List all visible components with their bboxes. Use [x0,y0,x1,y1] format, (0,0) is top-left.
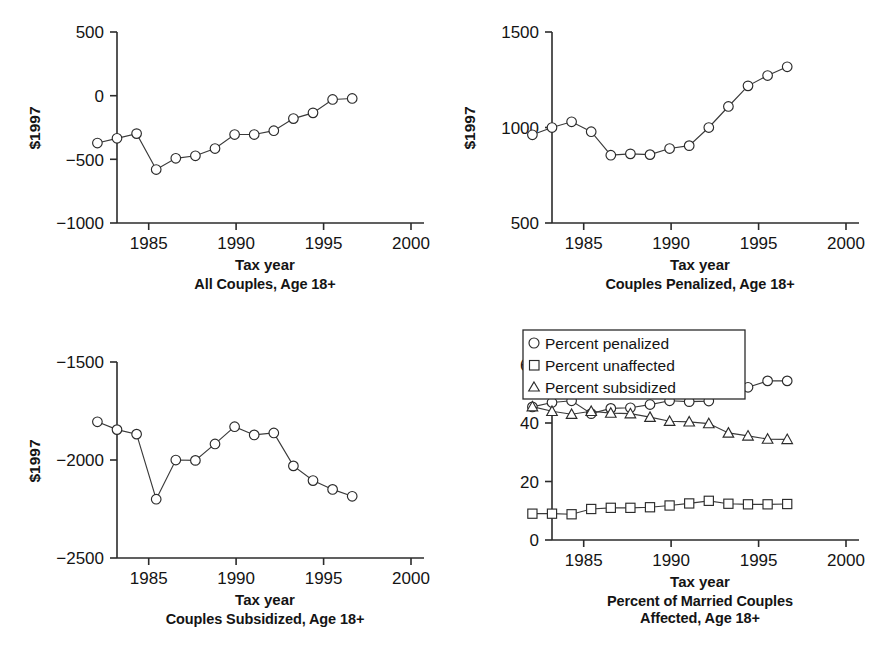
data-point-circle [782,62,792,72]
y-ticklabel: 500 [511,214,539,233]
panel-percent-affected: 60 40 20 0 1985 1990 1995 2000 [435,329,871,659]
data-point-circle [645,150,655,160]
legend-label: Percent subsidized [545,379,676,396]
data-point-square [783,499,792,508]
data-point-circle [684,141,694,151]
data-point-circle [645,400,655,410]
x-axis: 1985 1990 1995 2000 [117,223,430,253]
legend-item-unaffected[interactable]: Percent unaffected [530,357,675,374]
legend[interactable]: Percent penalized Percent unaffected Per… [523,330,745,399]
y-axis: 1500 1000 500 [501,23,552,233]
data-point-square [626,503,635,512]
y-ticklabel: −2000 [56,451,104,470]
data-point-circle [230,422,240,432]
panel-all-couples: $1997 500 0 −500 −1000 1985 1990 [0,0,436,330]
data-point-square [528,509,537,518]
y-ticklabel: 0 [530,531,539,550]
x-ticklabel: 1985 [565,234,603,253]
data-point-square [685,499,694,508]
x-ticklabel: 1990 [652,551,690,570]
series-polyline [532,67,787,155]
data-point-circle [132,129,142,139]
data-point-circle [665,144,675,154]
data-point-circle [763,71,773,81]
data-point-square [704,496,713,505]
legend-item-subsidized[interactable]: Percent subsidized [529,379,676,396]
y-axis-label-group: $1997 [26,439,43,482]
panel-caption-couples-subsidized: Couples Subsidized, Age 18+ [70,611,460,628]
y-axis-label: $1997 [26,439,43,482]
data-series-all-couples [93,94,357,175]
x-ticklabel: 1995 [740,234,778,253]
y-ticklabel: −500 [66,151,104,170]
series-percent-subsidized [527,401,792,443]
data-point-circle [724,102,734,112]
data-point-square [645,503,654,512]
x-ticklabel: 1985 [130,234,168,253]
data-point-circle [606,150,616,160]
x-ticklabel: 1990 [217,569,255,588]
figure-root: $1997 500 0 −500 −1000 1985 1990 [0,0,871,659]
data-point-square [606,503,615,512]
data-point-circle [191,456,201,466]
data-point-circle [704,123,714,133]
data-point-circle [249,430,259,440]
data-point-circle [210,439,220,449]
legend-item-penalized[interactable]: Percent penalized [529,335,669,352]
y-ticklabel: 40 [520,414,539,433]
y-axis-label: $1997 [461,106,478,149]
panel-caption-all-couples: All Couples, Age 18+ [90,276,440,293]
data-point-square [665,501,674,510]
x-ticklabel: 2000 [827,234,865,253]
data-point-circle [328,95,338,105]
y-ticklabel: −1000 [56,214,104,233]
panel-caption-percent-affected: Percent of Married Couples Affected, Age… [485,593,871,627]
data-point-circle [249,130,259,140]
x-axis-title: Tax year [670,573,730,590]
y-ticklabel: −1500 [56,353,104,372]
x-ticklabel: 1990 [652,234,690,253]
y-ticklabel: −2500 [56,549,104,568]
data-point-circle [347,94,357,104]
series-couples-penalized-age-18- [528,62,792,160]
data-point-circle [93,417,103,427]
x-ticklabel: 2000 [392,234,430,253]
data-point-circle [210,144,220,154]
panel-couples-penalized: $1997 1500 1000 500 1985 1990 1995 [435,0,871,330]
data-point-circle [93,138,103,148]
data-point-circle [347,491,357,501]
circle-icon [529,338,539,348]
panel-couples-subsidized: $1997 −1500 −2000 −2500 1985 1990 1995 [0,329,436,659]
data-point-circle [308,108,318,118]
data-point-circle [763,376,773,386]
x-ticklabel: 1985 [565,551,603,570]
data-point-circle [112,425,122,435]
data-point-circle [132,429,142,439]
data-point-square [743,500,752,509]
y-axis-label-group: $1997 [461,106,478,149]
y-ticklabel: 20 [520,473,539,492]
data-point-circle [230,130,240,140]
plot-couples-subsidized: $1997 −1500 −2000 −2500 1985 1990 1995 [0,329,436,611]
data-point-circle [289,114,299,124]
data-point-circle [586,127,596,137]
data-point-circle [269,126,279,136]
x-ticklabel: 1995 [305,569,343,588]
plot-couples-penalized: $1997 1500 1000 500 1985 1990 1995 [435,0,871,276]
data-point-square [547,509,556,518]
legend-label: Percent penalized [545,335,669,352]
y-axis: 500 0 −500 −1000 [56,23,117,233]
data-point-circle [743,81,753,91]
data-point-circle [191,151,201,161]
x-axis: 1985 1990 1995 2000 [117,558,430,588]
series-couples-subsidized-age-18- [93,417,357,504]
data-point-circle [289,461,299,471]
data-point-circle [112,134,122,144]
data-point-circle [567,117,577,127]
plot-all-couples: $1997 500 0 −500 −1000 1985 1990 [0,0,436,276]
x-axis: 1985 1990 1995 2000 [552,540,865,570]
x-ticklabel: 1990 [217,234,255,253]
data-point-circle [626,149,636,159]
data-point-square [724,499,733,508]
data-point-circle [171,455,181,465]
